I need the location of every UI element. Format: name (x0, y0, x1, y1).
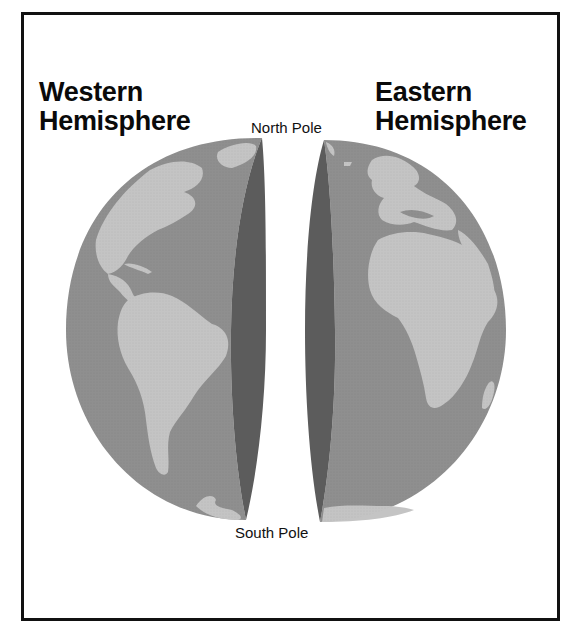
eastern-hemisphere-globe (305, 140, 506, 522)
split-globe-illustration (0, 0, 568, 633)
western-hemisphere-globe (66, 138, 266, 520)
